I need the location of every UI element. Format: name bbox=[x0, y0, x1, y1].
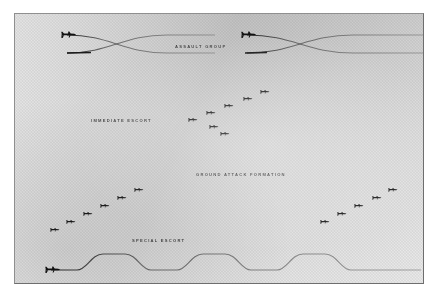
aircraft-ground-attack-right-5 bbox=[320, 220, 329, 224]
aircraft-immediate-escort-7 bbox=[220, 132, 229, 136]
aircraft-immediate-escort-3 bbox=[224, 104, 233, 108]
aircraft-ground-attack-left-2 bbox=[117, 196, 126, 200]
plate-page: ASSAULT GROUP IMMEDIATE ESCORT GROUND AT… bbox=[0, 0, 443, 297]
aircraft-immediate-escort-1 bbox=[260, 90, 269, 94]
formation-diagram bbox=[15, 14, 424, 284]
assault-group-right-paths bbox=[247, 35, 423, 53]
aircraft-ground-attack-left-1 bbox=[134, 188, 143, 192]
aircraft-ground-attack-left-4 bbox=[83, 212, 92, 216]
aircraft-ground-attack-left-3 bbox=[100, 204, 109, 208]
label-special-escort: SPECIAL ESCORT bbox=[132, 238, 185, 243]
aircraft-ground-attack-left-5 bbox=[66, 220, 75, 224]
label-ground-attack-formation: GROUND ATTACK FORMATION bbox=[196, 172, 286, 177]
aircraft-assault-left-second bbox=[67, 52, 91, 53]
aircraft-assault-left-lead bbox=[61, 32, 76, 38]
aircraft-immediate-escort-6 bbox=[209, 125, 218, 129]
aircraft-immediate-escort-4 bbox=[206, 111, 215, 115]
label-immediate-escort: IMMEDIATE ESCORT bbox=[91, 118, 152, 123]
formation-immediate-escort bbox=[188, 90, 423, 136]
label-assault-group: ASSAULT GROUP bbox=[175, 44, 226, 49]
formation-assault-group bbox=[61, 32, 423, 53]
aircraft-ground-attack-right-2 bbox=[372, 196, 381, 200]
aircraft-special-escort-lead bbox=[45, 267, 60, 274]
special-escort-weave-path bbox=[51, 254, 421, 270]
aircraft-immediate-escort-5 bbox=[188, 118, 197, 122]
photographic-plate: ASSAULT GROUP IMMEDIATE ESCORT GROUND AT… bbox=[14, 13, 424, 284]
aircraft-ground-attack-left-6 bbox=[50, 228, 59, 232]
aircraft-ground-attack-right-4 bbox=[337, 212, 346, 216]
formation-special-escort bbox=[45, 254, 421, 273]
aircraft-ground-attack-right-3 bbox=[354, 204, 363, 208]
formation-ground-attack bbox=[50, 188, 423, 232]
aircraft-immediate-escort-2 bbox=[243, 97, 252, 101]
aircraft-ground-attack-right-1 bbox=[388, 188, 397, 192]
aircraft-assault-right-lead bbox=[241, 32, 256, 38]
aircraft-assault-right-second bbox=[245, 52, 267, 53]
